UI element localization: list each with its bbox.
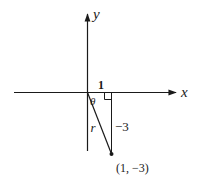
y-axis-label: y [91,6,100,22]
coordinate-diagram: y x 1 θ r −3 (1, −3) [0,0,199,188]
angle-theta-label: θ [90,95,96,107]
point-label: (1, −3) [116,161,149,175]
right-angle-marker [105,93,112,100]
x-axis-label: x [180,84,188,100]
point-marker [110,152,114,156]
horizontal-leg-label: 1 [98,78,104,92]
vertical-leg-label: −3 [115,119,129,134]
hypotenuse-label: r [91,120,97,135]
